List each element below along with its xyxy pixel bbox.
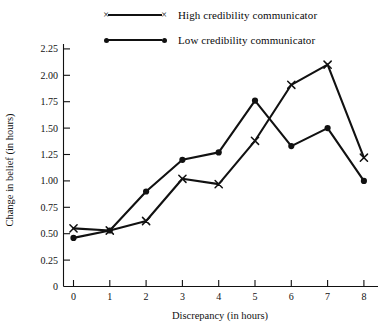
y-axis-title: Change in belief (in hours)	[4, 113, 16, 227]
x-tick-label: 3	[180, 291, 185, 302]
x-axis-ticks	[74, 280, 364, 287]
dot-marker-icon	[325, 125, 331, 131]
dot-marker-icon	[216, 149, 222, 155]
dot-marker-icon	[252, 98, 258, 104]
dot-marker-icon	[361, 178, 367, 184]
dot-marker-icon	[143, 188, 149, 194]
x-axis-title: Discrepancy (in hours)	[172, 310, 269, 322]
x-tick-label: 8	[361, 291, 366, 302]
x-marker-icon	[288, 81, 295, 88]
x-tick-label: 6	[289, 291, 294, 302]
dot-marker-icon	[107, 227, 113, 233]
y-axis-tick-labels: 00.250.500.751.001.251.501.752.002.25	[41, 43, 59, 292]
dot-marker-icon	[70, 235, 76, 241]
y-tick-label: 1.25	[41, 149, 59, 160]
data-series	[70, 98, 367, 242]
y-tick-label: 0.25	[41, 255, 59, 266]
x-marker-icon	[251, 137, 258, 144]
x-tick-label: 4	[216, 291, 221, 302]
y-tick-label: 2.00	[41, 70, 59, 81]
x-tick-label: 2	[144, 291, 149, 302]
plot-area: 00.250.500.751.001.251.501.752.002.25 01…	[0, 0, 389, 331]
y-tick-label: 0	[53, 281, 58, 292]
data-series	[70, 61, 368, 234]
y-tick-label: 1.00	[41, 175, 59, 186]
y-tick-label: 1.75	[41, 96, 59, 107]
data-series-layer	[70, 61, 368, 241]
series-line	[74, 101, 364, 238]
chart-figure: × × High credibility communicator Low cr…	[0, 0, 389, 331]
x-tick-label: 5	[253, 291, 258, 302]
dot-marker-icon	[179, 157, 185, 163]
y-axis: 00.250.500.751.001.251.501.752.002.25	[41, 43, 71, 292]
y-tick-label: 0.50	[41, 228, 59, 239]
x-tick-label: 7	[325, 291, 330, 302]
series-line	[74, 65, 364, 231]
y-axis-ticks	[64, 49, 71, 260]
y-tick-label: 1.50	[41, 123, 59, 134]
y-tick-label: 2.25	[41, 43, 59, 54]
x-axis-tick-labels: 012345678	[71, 291, 366, 302]
x-tick-label: 1	[107, 291, 112, 302]
dot-marker-icon	[288, 143, 294, 149]
x-axis: 012345678	[64, 280, 379, 302]
x-tick-label: 0	[71, 291, 76, 302]
y-tick-label: 0.75	[41, 202, 59, 213]
